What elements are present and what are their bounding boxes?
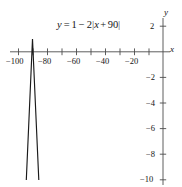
absolute-value-curve — [26, 39, 39, 180]
equation-inner-var: x — [94, 19, 99, 30]
x-tick-label-neg60: −60 — [67, 57, 80, 66]
equation-minus: − — [79, 19, 85, 30]
y-tick-label-neg10: −10 — [140, 175, 153, 184]
x-tick-label-neg80: −80 — [38, 57, 51, 66]
y-tick-label-neg8: −8 — [146, 150, 155, 159]
equation-plus: + — [100, 19, 106, 30]
x-axis-name-label: x — [170, 45, 174, 54]
y-tick-label-neg4: −4 — [146, 99, 155, 108]
equation-label: y=1−2|x+90| — [57, 20, 120, 31]
y-tick-label-2: 2 — [150, 22, 154, 31]
equation-rhs-a: 1 — [72, 19, 77, 30]
y-tick-label-neg6: −6 — [146, 124, 155, 133]
equation-equals: = — [64, 19, 70, 30]
graph-figure: y=1−2|x+90| x y −100 −80 −60 −40 −20 2 −… — [0, 0, 182, 187]
equation-inner-const: 90 — [108, 19, 119, 30]
y-tick-label-neg2: −2 — [146, 73, 155, 82]
y-axis-name-label: y — [164, 8, 168, 17]
equation-lhs: y — [57, 19, 62, 30]
equation-bar-close: | — [118, 20, 120, 31]
x-tick-label-neg20: −20 — [125, 57, 138, 66]
equation-bar-open: | — [92, 20, 94, 31]
x-tick-label-neg40: −40 — [96, 57, 109, 66]
x-tick-label-neg100: −100 — [6, 57, 24, 66]
